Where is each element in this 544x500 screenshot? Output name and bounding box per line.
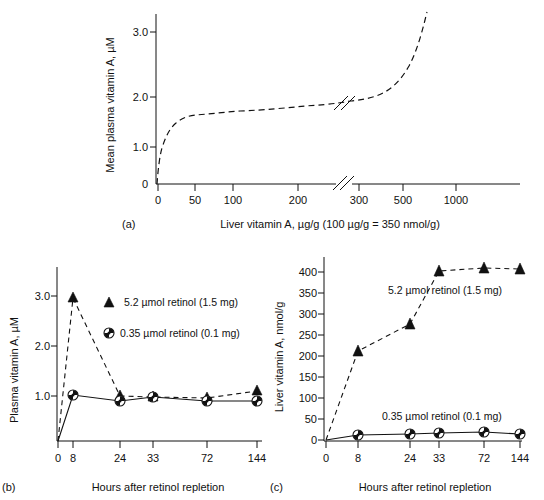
panel-a-xtick-200: 200 [289,194,307,206]
panel-b-point-low-24 [115,396,125,406]
panel-c-ylabel: Liver vitamin A, nmol/g [273,302,285,413]
panel-b-xtick-144: 144 [248,452,266,464]
panel-a-xtick-50: 50 [189,194,201,206]
panel-a: Mean plasma vitamin A, µM 3.0 2.0 1.0 0 [100,0,544,235]
panel-a-xtick-0: 0 [155,194,161,206]
panel-c-xtick-0: 0 [323,452,329,464]
panel-a-tag: (a) [122,218,135,230]
panel-a-curve [157,12,427,184]
panel-b-ytick-3: 3.0 [35,290,50,302]
panel-b-series-high-line [58,298,257,441]
panel-b-point-high-8 [68,292,78,302]
legend-triangle-icon [104,297,114,307]
panel-c-ytick-400: 400 [299,266,317,278]
panel-a-xtick-300: 300 [350,194,368,206]
panel-c-point-high-24 [405,318,415,329]
panel-c-point-low-33 [434,428,444,438]
panel-c-xlabel: Hours after retinol repletion [359,481,492,493]
panel-c-markers-high [353,262,525,356]
panel-b-xtick-8: 8 [70,452,76,464]
panel-a-ylabel: Mean plasma vitamin A, µM [104,37,116,172]
panel-c-xtick-8: 8 [355,452,361,464]
panel-b: Plasma vitamin A, µM 3.0 2.0 1.0 0 8 24 … [0,245,280,500]
panel-c-xtick-24: 24 [404,452,416,464]
panel-c-xtick-33: 33 [433,452,445,464]
panel-c-plot: Liver vitamin A, nmol/g 400 350 300 250 … [270,245,544,500]
panel-c-tag: (c) [270,481,283,493]
panel-c-point-low-72 [479,427,489,437]
panel-a-x-axis-break-icon [333,176,354,190]
panel-b-legend-label-high: 5.2 µmol retinol (1.5 mg) [124,296,238,308]
panel-c-ytick-250: 250 [299,329,317,341]
panel-b-series-low-line [58,395,257,441]
panel-b-point-high-144 [252,385,262,395]
panel-b-point-low-8 [68,390,78,400]
panel-c-point-low-8 [353,430,363,440]
panel-c-ytick-0: 0 [311,434,317,446]
panel-a-ytick-1: 1.0 [133,141,148,153]
panel-c-annotation-high: 5.2 µmol retinol (1.5 mg) [388,284,502,296]
panel-c-annotation-low: 0.35 µmol retinol (0.1 mg) [382,410,502,422]
panel-a-ytick-0: 0 [142,178,148,190]
panel-c-point-low-24 [405,429,415,439]
panel-a-ytick-2: 2.0 [133,91,148,103]
panel-c-xtick-72: 72 [478,452,490,464]
panel-b-legend-label-low: 0.35 µmol retinol (0.1 mg) [120,327,240,339]
panel-a-xlabel: Liver vitamin A, µg/g (100 µg/g = 350 nm… [220,218,440,230]
panel-c-ytick-350: 350 [299,287,317,299]
panel-c-ytick-300: 300 [299,308,317,320]
panel-c-ytick-150: 150 [299,371,317,383]
panel-b-point-low-33 [148,392,158,402]
panel-b-plot: Plasma vitamin A, µM 3.0 2.0 1.0 0 8 24 … [0,245,280,500]
panel-b-ytick-1: 1.0 [35,390,50,402]
panel-c-point-high-72 [479,262,489,273]
panel-c-ytick-100: 100 [299,392,317,404]
panel-c-markers-low [353,427,525,440]
panel-a-curve-break-icon [334,96,355,110]
panel-b-xtick-24: 24 [114,452,126,464]
panel-c-point-high-8 [353,345,363,356]
panel-a-xtick-100: 100 [224,194,242,206]
panel-a-xtick-500: 500 [394,194,412,206]
panel-c-point-low-144 [515,429,525,439]
panel-a-ytick-3: 3.0 [133,26,148,38]
panel-c-ytick-50: 50 [305,413,317,425]
legend-checkered-circle-icon [104,328,114,338]
panel-b-xtick-33: 33 [147,452,159,464]
figure-root: Mean plasma vitamin A, µM 3.0 2.0 1.0 0 [0,0,544,500]
panel-c-ytick-200: 200 [299,350,317,362]
panel-b-ylabel: Plasma vitamin A, µM [8,317,20,423]
panel-c: Liver vitamin A, nmol/g 400 350 300 250 … [270,245,544,500]
panel-b-legend: 5.2 µmol retinol (1.5 mg) 0.35 µmol reti… [104,296,240,339]
panel-a-plot: Mean plasma vitamin A, µM 3.0 2.0 1.0 0 [100,0,544,235]
panel-b-point-low-72 [202,396,212,406]
panel-a-xtick-1000: 1000 [444,194,468,206]
panel-b-xtick-0: 0 [55,452,61,464]
panel-b-tag: (b) [2,481,15,493]
panel-b-ytick-2: 2.0 [35,340,50,352]
panel-b-xtick-72: 72 [201,452,213,464]
panel-b-point-low-144 [252,396,262,406]
panel-c-xtick-144: 144 [511,452,529,464]
panel-b-xlabel: Hours after retinol repletion [92,481,225,493]
